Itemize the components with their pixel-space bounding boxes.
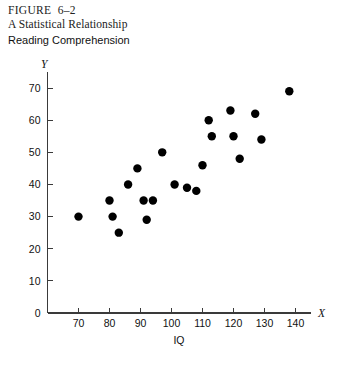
y-tick-label: 10 <box>29 275 41 287</box>
x-axis-ticks: 708090100110120130140 <box>73 308 305 329</box>
data-point <box>108 212 116 220</box>
y-axis-ticks: 010203040506070 <box>29 82 53 319</box>
y-tick-label: 60 <box>29 114 41 126</box>
data-point <box>198 161 206 169</box>
y-axis-symbol-label: Y <box>41 58 49 70</box>
axes-group <box>48 72 312 313</box>
x-tick-label: 80 <box>104 317 116 329</box>
y-tick-label: 50 <box>29 146 41 158</box>
x-tick-label: 130 <box>256 317 274 329</box>
data-point <box>183 183 191 191</box>
data-point <box>229 132 237 140</box>
y-tick-label: 40 <box>29 178 41 190</box>
y-tick-label: 0 <box>35 307 41 319</box>
x-axis-caption-label: IQ <box>173 334 184 346</box>
data-point <box>285 87 293 95</box>
data-point <box>105 196 113 204</box>
data-point <box>74 212 82 220</box>
data-point <box>226 106 234 114</box>
x-tick-label: 120 <box>225 317 243 329</box>
x-tick-label: 70 <box>73 317 85 329</box>
data-point <box>251 110 259 118</box>
y-tick-label: 30 <box>29 210 41 222</box>
data-point <box>257 135 265 143</box>
data-points-group <box>74 87 293 237</box>
y-tick-label: 20 <box>29 243 41 255</box>
data-point <box>124 180 132 188</box>
x-tick-label: 110 <box>194 317 211 329</box>
data-point <box>208 132 216 140</box>
data-point <box>133 164 141 172</box>
scatter-plot: 010203040506070 708090100110120130140 Y … <box>0 0 337 367</box>
y-tick-label: 70 <box>29 82 41 94</box>
data-point <box>139 196 147 204</box>
data-point <box>170 180 178 188</box>
data-point <box>115 228 123 236</box>
scatter-plot-svg: 010203040506070 708090100110120130140 Y … <box>0 0 337 367</box>
x-tick-label: 100 <box>163 317 181 329</box>
x-tick-label: 140 <box>287 317 305 329</box>
x-tick-label: 90 <box>135 317 147 329</box>
data-point <box>143 216 151 224</box>
data-point <box>192 187 200 195</box>
data-point <box>158 148 166 156</box>
data-point <box>236 155 244 163</box>
data-point <box>149 196 157 204</box>
data-point <box>205 116 213 124</box>
figure-root: FIGURE 6–2 A Statistical Relationship Re… <box>0 0 337 367</box>
x-axis-symbol-label: X <box>317 307 326 319</box>
